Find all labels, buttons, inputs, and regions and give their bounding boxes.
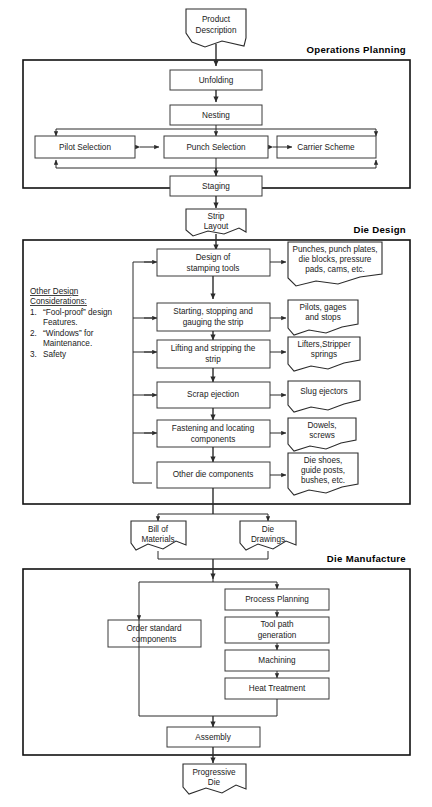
pilot-selection-label: Pilot Selection [59, 143, 111, 152]
node-order-standard-components: Order standard components [108, 620, 201, 647]
die-drawings-line-1: Die [262, 525, 275, 534]
strip-layout-line-2: Layout [204, 222, 229, 231]
node-scrap-ejection: Scrap ejection [157, 382, 270, 408]
note-item-2-number: 2. [30, 329, 37, 338]
section-label-operations-planning: Operations Planning [306, 44, 406, 55]
starting-stopping-line-2: gauging the strip [183, 318, 244, 327]
pilots-note-line-2: and stops [305, 313, 341, 322]
punches-note-line-1: Punches, punch plates, [292, 245, 377, 254]
node-punch-selection: Punch Selection [164, 136, 268, 158]
node-unfolding: Unfolding [170, 70, 262, 90]
dowels-note-line-2: screws [309, 431, 334, 440]
note-heading-line-1: Other Design [30, 287, 79, 296]
product-description-line-1: Product [202, 15, 231, 24]
fastening-locating-line-1: Fastening and locating [172, 424, 255, 433]
carrier-scheme-label: Carrier Scheme [297, 143, 355, 152]
node-lifters-note: Lifters,Stripper springs [288, 337, 360, 371]
node-strip-layout: Strip Layout [186, 209, 246, 236]
fastening-locating-line-2: components [191, 435, 236, 444]
scrap-ejection-label: Scrap ejection [187, 390, 239, 399]
punch-selection-label: Punch Selection [186, 143, 246, 152]
spine-die-design-feedback [133, 262, 152, 483]
note-item-1-line-1: “Fool-proof” design [43, 308, 113, 317]
node-slug-note: Slug ejectors [288, 381, 360, 412]
node-other-die-components: Other die components [157, 462, 270, 488]
progressive-die-line-2: Die [208, 778, 221, 787]
dieshoes-note-line-3: bushes, etc. [301, 476, 345, 485]
note-item-3-number: 3. [30, 350, 37, 359]
section-label-die-design: Die Design [353, 224, 406, 235]
section-label-die-manufacture: Die Manufacture [327, 553, 406, 564]
bus-die-manufacture-top [139, 579, 277, 582]
node-product-description: Product Description [186, 9, 246, 47]
tool-path-generation-line-2: generation [258, 631, 297, 640]
node-pilot-selection: Pilot Selection [35, 136, 135, 158]
product-description-line-2: Description [196, 26, 237, 35]
note-item-1-number: 1. [30, 308, 37, 317]
process-planning-label: Process Planning [245, 595, 309, 604]
order-standard-components-line-2: components [132, 635, 177, 644]
slug-note-line-1: Slug ejectors [300, 387, 347, 396]
progressive-die-line-1: Progressive [192, 768, 236, 777]
node-assembly: Assembly [167, 727, 260, 747]
lifting-stripping-line-1: Lifting and stripping the [171, 344, 256, 353]
node-lifting-stripping: Lifting and stripping the strip [157, 340, 270, 368]
node-die-drawings: Die Drawings [240, 521, 296, 550]
bill-of-materials-line-2: Materials [141, 535, 174, 544]
node-staging: Staging [170, 176, 262, 196]
node-punches-note: Punches, punch plates, die blocks, press… [288, 242, 382, 286]
node-starting-stopping: Starting, stopping and gauging the strip [157, 303, 270, 331]
tool-path-generation-line-1: Tool path [260, 620, 294, 629]
design-stamping-tools-line-2: stamping tools [187, 264, 240, 273]
strip-layout-line-1: Strip [208, 212, 225, 221]
node-dieshoes-note: Die shoes, guide posts, bushes, etc. [288, 453, 358, 495]
node-bill-of-materials: Bill of Materials [131, 521, 186, 550]
punches-note-line-2: die blocks, pressure [299, 255, 372, 264]
starting-stopping-line-1: Starting, stopping and [173, 307, 253, 316]
other-die-components-label: Other die components [173, 470, 254, 479]
dieshoes-note-line-1: Die shoes, [304, 456, 343, 465]
nesting-label: Nesting [202, 111, 230, 120]
dowels-note-line-1: Dowels, [307, 421, 336, 430]
die-drawings-line-2: Drawings [251, 535, 285, 544]
node-design-stamping-tools: Design of stamping tools [157, 249, 270, 276]
order-standard-components-line-1: Order standard [126, 624, 182, 633]
note-item-2-line-1: “Windows” for [43, 329, 94, 338]
lifters-note-line-1: Lifters,Stripper [297, 340, 351, 349]
note-item-2-line-2: Maintenance. [43, 339, 92, 348]
design-stamping-tools-line-1: Design of [196, 253, 231, 262]
punches-note-line-3: pads, cams, etc. [305, 265, 365, 274]
lifting-stripping-line-2: strip [205, 355, 221, 364]
node-nesting: Nesting [170, 105, 262, 125]
heat-treatment-label: Heat Treatment [249, 684, 306, 693]
note-item-1-line-2: Features. [43, 318, 78, 327]
note-item-3-line-1: Safety [43, 350, 67, 359]
machining-label: Machining [258, 656, 296, 665]
dieshoes-note-line-2: guide posts, [301, 466, 345, 475]
note-other-design-considerations: Other Design Considerations: 1. “Fool-pr… [30, 287, 113, 359]
bill-of-materials-line-1: Bill of [148, 525, 169, 534]
node-fastening-locating: Fastening and locating components [157, 420, 270, 447]
lifters-note-line-2: springs [311, 350, 337, 359]
node-pilots-note: Pilots, gages and stops [288, 300, 358, 335]
node-progressive-die: Progressive Die [183, 764, 246, 794]
node-process-planning: Process Planning [225, 589, 329, 610]
flowchart-diagram: Operations Planning Die Design Die Manuf… [0, 0, 432, 807]
node-heat-treatment: Heat Treatment [225, 678, 329, 699]
note-heading-line-2: Considerations: [30, 297, 87, 306]
bus-nesting-down [56, 125, 376, 129]
unfolding-label: Unfolding [199, 76, 234, 85]
staging-label: Staging [202, 182, 230, 191]
node-machining: Machining [225, 650, 329, 671]
node-tool-path-generation: Tool path generation [225, 617, 329, 643]
node-dowels-note: Dowels, screws [288, 418, 356, 451]
assembly-label: Assembly [195, 733, 231, 742]
bus-merge-bom-drawings [158, 551, 268, 559]
pilots-note-line-1: Pilots, gages [300, 303, 347, 312]
